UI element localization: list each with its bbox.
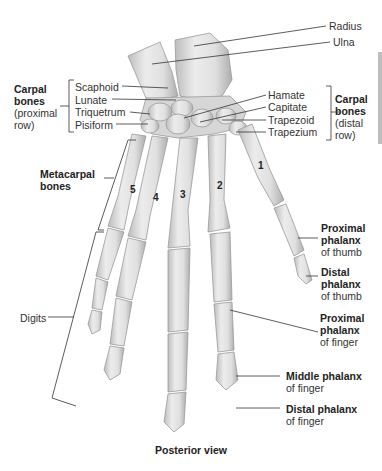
label-trapezoid: Trapezoid <box>268 114 314 126</box>
label-lunate: Lunate <box>75 94 107 106</box>
label-middle-phalanx-finger: Middle phalanx of finger <box>286 370 362 394</box>
dp-thumb-line-2: phalanx <box>321 278 362 290</box>
label-metacarpal-bones: Metacarpal bones <box>40 168 95 192</box>
metacarpal-line-2: bones <box>40 180 95 192</box>
figure-caption: Posterior view <box>0 444 382 456</box>
mp-finger-line-1: Middle phalanx <box>286 370 362 382</box>
pp-thumb-line-2: phalanx <box>321 234 365 246</box>
label-distal-phalanx-thumb: Distal phalanx of thumb <box>321 266 362 302</box>
page-edge-bar <box>378 52 382 144</box>
label-digits: Digits <box>20 312 46 324</box>
label-radius: Radius <box>329 20 362 32</box>
metacarpal-number-4: 4 <box>153 192 159 203</box>
dp-thumb-line-3: of thumb <box>321 290 362 302</box>
metacarpal-number-2: 2 <box>217 180 223 191</box>
label-carpal-bones-distal: Carpal bones (distal row) <box>335 93 368 141</box>
distal-phalanx-4 <box>104 346 124 380</box>
label-hamate: Hamate <box>268 89 305 101</box>
label-capitate: Capitate <box>268 101 307 113</box>
metacarpal-number-1: 1 <box>258 160 264 171</box>
label-proximal-phalanx-finger: Proximal phalanx of finger <box>320 312 364 348</box>
middle-phalanx-5 <box>92 278 108 310</box>
distal-phalanx-3 <box>164 392 186 432</box>
dp-thumb-line-1: Distal <box>321 266 362 278</box>
label-ulna: Ulna <box>333 36 355 48</box>
metacarpal-number-5: 5 <box>130 184 136 195</box>
label-distal-phalanx-finger: Distal phalanx of finger <box>286 403 357 427</box>
distal-phalanx-5 <box>88 310 102 334</box>
label-carpal-bones-proximal: Carpal bones (proximal row) <box>14 83 57 131</box>
middle-phalanx-2 <box>214 302 234 352</box>
pp-thumb-line-3: of thumb <box>321 246 365 258</box>
proximal-phalanx-thumb <box>274 204 304 256</box>
middle-phalanx-4 <box>110 298 132 346</box>
proximal-phalanx-3 <box>168 248 190 332</box>
mp-finger-line-2: of finger <box>286 382 362 394</box>
label-pisiform: Pisiform <box>75 119 113 131</box>
carpal-distal-title-2: bones <box>335 105 368 117</box>
carpal-distal-title-1: Carpal <box>335 93 368 105</box>
pp-thumb-line-1: Proximal <box>321 222 365 234</box>
label-trapezium: Trapezium <box>268 126 317 138</box>
carpal-proximal-title-1: Carpal <box>14 83 57 95</box>
carpal-proximal-sub-2: row) <box>14 119 57 131</box>
carpal-distal-sub-1: (distal <box>335 117 368 129</box>
carpal-proximal-title-2: bones <box>14 95 57 107</box>
dp-finger-line-2: of finger <box>286 415 357 427</box>
carpal-distal-sub-2: row) <box>335 129 368 141</box>
proximal-phalanx-5 <box>96 228 124 280</box>
proximal-phalanx-4 <box>116 238 146 300</box>
proximal-phalanx-2 <box>210 232 232 302</box>
radius-bone <box>175 33 232 100</box>
label-proximal-phalanx-thumb: Proximal phalanx of thumb <box>321 222 365 258</box>
dp-finger-line-1: Distal phalanx <box>286 403 357 415</box>
carpal-proximal-sub-1: (proximal <box>14 107 57 119</box>
distal-phalanx-thumb <box>294 254 312 284</box>
middle-phalanx-3 <box>168 332 188 392</box>
pp-finger-line-3: of finger <box>320 336 364 348</box>
pp-finger-line-2: phalanx <box>320 324 364 336</box>
distal-phalanx-2 <box>216 352 238 390</box>
pp-finger-line-1: Proximal <box>320 312 364 324</box>
label-scaphoid: Scaphoid <box>75 81 119 93</box>
label-triquetrum: Triquetrum <box>75 106 125 118</box>
metacarpal-number-3: 3 <box>180 189 186 200</box>
metacarpal-line-1: Metacarpal <box>40 168 95 180</box>
ulna-bone <box>128 42 178 100</box>
